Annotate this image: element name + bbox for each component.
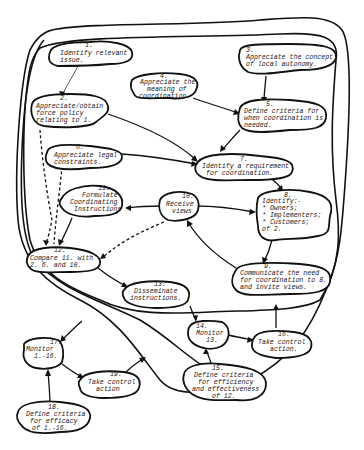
node-12-number: 12. bbox=[54, 247, 66, 254]
coordination-system-diagram: 1. Identify relevant issue. 2. Appreciat… bbox=[0, 0, 364, 450]
node-7: 7. Identify a requirement for coordinati… bbox=[195, 154, 293, 180]
node-6: 6. Appreciate legal constraints. bbox=[46, 144, 122, 169]
node-6-number: 6. bbox=[76, 144, 84, 151]
node-11-number: 11. bbox=[98, 185, 110, 192]
node-9: 9. Communicate the need for coordination… bbox=[232, 263, 330, 295]
node-2-line-3: relating to 1. bbox=[36, 117, 91, 124]
node-18-line-1: Define criteria bbox=[26, 411, 85, 418]
node-10-line-1: Receive bbox=[166, 201, 194, 208]
node-18-line-2: for efficacy bbox=[30, 418, 79, 425]
node-6-line-1: Appreciate legal bbox=[53, 152, 117, 159]
node-2: 2. Appreciate/obtain force policy relati… bbox=[31, 94, 108, 127]
node-1: 1. Identify relevant issue. bbox=[49, 41, 132, 66]
node-2-number: 2. bbox=[60, 95, 68, 102]
node-10-line-2: views bbox=[172, 208, 192, 215]
node-15: 15. Define criteria for efficiency and e… bbox=[183, 363, 266, 400]
node-3-line-2: of local autonomy. bbox=[246, 61, 317, 68]
node-3-number: 3. bbox=[246, 47, 254, 54]
node-8-line-4: * Customers; bbox=[262, 219, 309, 226]
node-11-line-3: Instructions bbox=[74, 206, 122, 213]
node-16-line-1: Take control bbox=[258, 339, 306, 346]
node-5-line-1: Define criteria for bbox=[244, 108, 319, 115]
node-14: 14. Monitor 13. bbox=[188, 321, 229, 349]
node-13: 13. Disseminate instructions. bbox=[123, 281, 190, 308]
node-5: 5. Define criteria for when coordination… bbox=[238, 99, 326, 132]
node-16-line-2: action. bbox=[270, 346, 298, 353]
node-15-line-2: for efficiency bbox=[198, 379, 254, 386]
node-5-line-2: when coordination is bbox=[244, 115, 323, 122]
node-13-number: 13. bbox=[154, 281, 166, 288]
node-2-line-1: Appreciate/obtain bbox=[35, 103, 103, 110]
node-17-line-2: 1.-16. bbox=[34, 353, 58, 360]
node-14-number: 14. bbox=[196, 323, 208, 330]
node-13-line-1: Disseminate bbox=[134, 288, 178, 295]
node-17-number: 17. bbox=[50, 339, 62, 346]
node-9-line-1: Communicate the need bbox=[240, 270, 319, 277]
node-19: 19. Take control action bbox=[79, 371, 140, 398]
node-5-line-3: needed. bbox=[244, 122, 272, 129]
node-5-number: 5. bbox=[266, 101, 274, 108]
node-8-line-3: * Implementers; bbox=[262, 212, 321, 219]
node-14-line-2: 13. bbox=[206, 337, 218, 344]
node-11-line-2: Coordinating bbox=[70, 199, 118, 206]
node-12-line-2: 2. 6. and 10. bbox=[30, 262, 81, 269]
node-19-line-1: Take control bbox=[88, 379, 136, 386]
node-8-line-5: of 2. bbox=[262, 226, 282, 233]
node-8-line-1: Identify:- bbox=[262, 198, 302, 205]
node-12-line-1: Compare 11. with bbox=[30, 255, 93, 262]
node-13-line-2: instructions. bbox=[130, 295, 181, 302]
node-19-number: 19. bbox=[110, 371, 122, 378]
node-16: 16. Take control action. bbox=[252, 331, 311, 358]
node-3-line-1: Appreciate the concept bbox=[245, 54, 333, 61]
node-8: 8. Identify:- * Owners; * Implementers; … bbox=[257, 190, 332, 240]
node-15-line-3: and effectiveness bbox=[192, 386, 259, 393]
node-7-line-2: for coordination. bbox=[206, 170, 273, 177]
node-4-line-1: Appreciate the bbox=[139, 79, 195, 86]
node-7-number: 7. bbox=[240, 156, 248, 163]
node-16-number: 16. bbox=[278, 331, 290, 338]
node-12: 12. Compare 11. with 2. 6. and 10. bbox=[27, 247, 101, 272]
node-2-line-2: force policy bbox=[36, 110, 85, 117]
node-9-number: 9. bbox=[264, 263, 272, 270]
node-10: 10. Receive views bbox=[159, 192, 198, 221]
node-1-line-2: issue. bbox=[60, 57, 84, 64]
node-7-line-1: Identify a requirement bbox=[202, 163, 289, 170]
node-4-line-3: coordination. bbox=[139, 93, 190, 100]
node-11-line-1: Formulate bbox=[82, 192, 118, 199]
node-15-number: 15. bbox=[212, 365, 224, 372]
node-14-line-1: Monitor bbox=[196, 330, 224, 337]
node-1-line-1: Identify relevant bbox=[60, 50, 127, 57]
node-11: 11. Formulate Coordinating Instructions bbox=[60, 185, 123, 217]
node-17: 17. Monitor 1.-16. bbox=[24, 338, 64, 369]
node-6-line-2: constraints. bbox=[54, 159, 101, 166]
node-3: 3. Appreciate the concept of local auton… bbox=[239, 44, 336, 74]
node-15-line-1: Define criteria bbox=[194, 372, 253, 379]
node-18-number: 18. bbox=[48, 404, 60, 411]
node-9-line-3: and invite views. bbox=[240, 284, 307, 291]
node-4: 4. Appreciate the meaning of coordinatio… bbox=[131, 73, 198, 100]
node-18: 18. Define criteria for efficacy of 1.-1… bbox=[17, 401, 90, 433]
node-9-line-2: for coordination to 8. bbox=[240, 277, 327, 284]
node-15-line-4: of 12. bbox=[212, 393, 236, 400]
node-1-number: 1. bbox=[85, 42, 93, 49]
node-10-number: 10. bbox=[182, 193, 194, 200]
node-18-line-3: of 1.-16. bbox=[32, 425, 68, 432]
node-4-line-2: meaning of bbox=[147, 86, 188, 93]
node-8-line-2: * Owners; bbox=[262, 205, 298, 212]
node-17-line-1: Monitor bbox=[26, 346, 54, 353]
node-19-line-2: action bbox=[96, 386, 120, 393]
